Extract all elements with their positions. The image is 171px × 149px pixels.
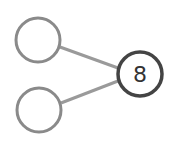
whole-value: 8 bbox=[133, 62, 147, 87]
connector-bottom bbox=[61, 81, 118, 103]
connector-top bbox=[60, 47, 118, 68]
number-bond-diagram: 8 bbox=[0, 0, 171, 149]
part-circle-bottom[interactable] bbox=[17, 88, 61, 132]
part-circle-top[interactable] bbox=[16, 18, 60, 62]
